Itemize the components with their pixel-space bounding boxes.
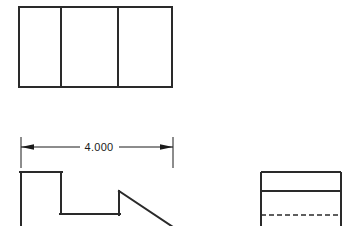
dimension-arrowhead-left <box>21 144 34 150</box>
right-side-view[interactable] <box>261 172 341 226</box>
drawing-viewport[interactable]: 4.000 <box>0 0 356 226</box>
cad-drawing-canvas: 4.000 <box>0 0 356 226</box>
width-dimension[interactable]: 4.000 <box>21 137 173 168</box>
dimension-arrowhead-right <box>160 144 173 150</box>
top-view-outline[interactable] <box>19 7 172 87</box>
dimension-value-text[interactable]: 4.000 <box>84 141 113 153</box>
front-view[interactable] <box>20 172 176 226</box>
top-view[interactable] <box>19 7 172 87</box>
front-view-chamfer-diagonal[interactable] <box>119 191 176 226</box>
